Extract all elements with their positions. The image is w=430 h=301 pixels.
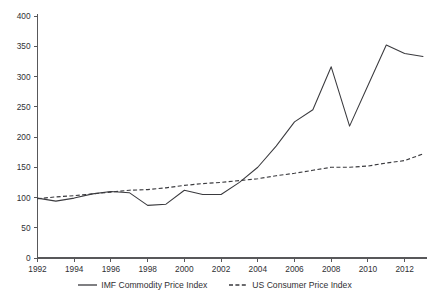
y-axis-tick-label: 100 [17,193,31,203]
legend-label-us-consumer-price-index: US Consumer Price Index [252,280,351,290]
x-axis-tick-label: 2002 [212,264,231,274]
x-axis-tick-label: 1998 [138,264,157,274]
x-axis-tick-label: 1994 [65,264,84,274]
y-axis-tick-label: 200 [17,132,31,142]
y-axis-tick-label: 0 [26,253,31,263]
legend-item-imf-commodity-price-index: IMF Commodity Price Index [78,280,207,290]
legend-swatch-solid-icon [78,281,97,289]
legend-swatch-dashed-icon [229,281,248,289]
x-axis-tick-label: 1996 [102,264,121,274]
chart-container: 050100150200250300350400 199219941996199… [0,0,430,301]
x-axis-tick-label: 1992 [28,264,47,274]
y-axis-tick-label: 50 [21,223,31,233]
series-line-us-consumer-price-index [38,154,424,199]
legend-item-us-consumer-price-index: US Consumer Price Index [229,280,351,290]
x-axis-tick-group: 1992199419961998200020022004200620082010… [28,258,414,274]
y-axis-tick-label: 400 [17,11,31,21]
chart-legend: IMF Commodity Price Index US Consumer Pr… [0,280,430,290]
x-axis-tick-label: 2006 [285,264,304,274]
line-chart-plot: 050100150200250300350400 199219941996199… [0,0,430,301]
x-axis-tick-label: 2012 [395,264,414,274]
y-axis-tick-label: 250 [17,102,31,112]
x-axis-tick-label: 2010 [359,264,378,274]
y-axis-tick-label: 350 [17,41,31,51]
y-axis-tick-group: 050100150200250300350400 [17,11,38,263]
x-axis-tick-label: 2004 [249,264,268,274]
x-axis-tick-label: 2008 [322,264,341,274]
y-axis-tick-label: 300 [17,72,31,82]
x-axis-tick-label: 2000 [175,264,194,274]
legend-label-imf-commodity-price-index: IMF Commodity Price Index [101,280,207,290]
y-axis-tick-label: 150 [17,162,31,172]
